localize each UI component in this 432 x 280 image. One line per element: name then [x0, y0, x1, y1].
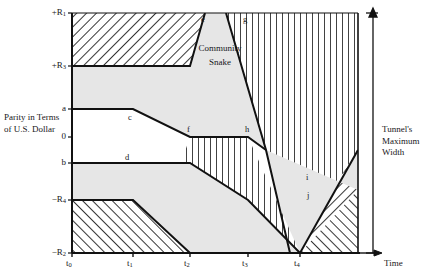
x-tick-label-2: t2 [184, 258, 190, 268]
tunnel-width-bracket [366, 8, 378, 253]
annotation-line-1: Community [172, 41, 268, 55]
annotation-line-2: Snake [172, 55, 268, 69]
y-tick-label-5: −R4 [24, 194, 66, 206]
x-axis-title: Time [384, 258, 403, 268]
tunnel-max-width-label: Tunnel's Maximum Width [382, 124, 432, 159]
y-tick-label-1: +R3 [24, 60, 66, 72]
community-snake-annotation: Community Snake [172, 41, 268, 69]
point-label-c: c [128, 112, 132, 122]
point-label-f: f [187, 124, 190, 134]
point-label-g: g [243, 14, 247, 24]
x-tick-label-4: t4 [294, 258, 300, 268]
y-tick-label-0: +R1 [24, 7, 66, 19]
point-label-e: e [201, 14, 205, 24]
point-label-i: i [306, 172, 308, 182]
x-tick-label-1: t1 [127, 258, 133, 268]
y-axis-title: Parity in Terms of U.S. Dollar [4, 112, 66, 135]
y-tick-label-6: −R2 [24, 247, 66, 259]
y-tick-label-4: b [24, 157, 66, 169]
point-label-d: d [125, 152, 129, 162]
x-tick-label-0: t0 [66, 258, 72, 268]
x-tick-label-3: t3 [242, 258, 248, 268]
point-label-h: h [245, 124, 249, 134]
point-label-j: j [307, 190, 309, 200]
